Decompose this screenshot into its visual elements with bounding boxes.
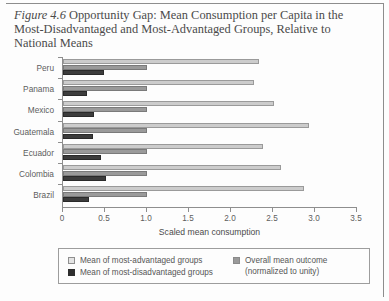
- bar-group-colombia: [63, 165, 363, 186]
- bar-group-peru: [63, 59, 363, 80]
- bar-brazil-mean: [63, 192, 147, 197]
- y-axis-tick: [58, 57, 62, 58]
- x-axis-title: Scaled mean consumption: [62, 227, 357, 237]
- x-axis-tick-label: 1.0: [131, 214, 161, 223]
- bar-panama-mean: [63, 86, 147, 91]
- y-axis-label-panama: Panama: [0, 84, 54, 94]
- y-axis-tick: [58, 184, 62, 185]
- y-axis-label-guatemala: Guatemala: [0, 127, 54, 137]
- x-axis-tick-label: 2.5: [257, 214, 287, 223]
- x-axis-tick-label: 3.0: [299, 214, 329, 223]
- x-axis-tick: [230, 208, 231, 212]
- bar-group-ecuador: [63, 144, 363, 165]
- bar-group-panama: [63, 80, 363, 101]
- x-axis-tick-label: 0.5: [89, 214, 119, 223]
- bar-peru-mean: [63, 65, 147, 70]
- x-axis-tick: [62, 208, 63, 212]
- y-axis-label-peru: Peru: [0, 63, 54, 73]
- bar-panama-dis: [63, 91, 87, 96]
- legend-label-overall-mean-line2: (normalized to unity): [245, 267, 319, 277]
- bar-group-brazil: [63, 186, 363, 207]
- bar-guatemala-dis: [63, 134, 93, 139]
- light-gray-swatch-icon: [68, 257, 75, 264]
- bar-ecuador-mean: [63, 149, 147, 154]
- bar-colombia-mean: [63, 171, 147, 176]
- y-axis-label-mexico: Mexico: [0, 105, 54, 115]
- bar-ecuador-dis: [63, 155, 101, 160]
- y-axis-label-ecuador: Ecuador: [0, 148, 54, 158]
- x-axis-tick-label: 0: [47, 214, 77, 223]
- legend-label-overall-mean-line1: Overall mean outcome: [245, 256, 327, 266]
- bar-group-mexico: [63, 101, 363, 122]
- chart-plot-area: PeruPanamaMexicoGuatemalaEcuadorColombia…: [0, 55, 389, 215]
- y-axis-label-colombia: Colombia: [0, 169, 54, 179]
- y-axis-label-brazil: Brazil: [0, 190, 54, 200]
- y-axis-tick: [58, 121, 62, 122]
- y-axis-tick: [58, 163, 62, 164]
- x-axis-tick: [314, 208, 315, 212]
- legend-label-disadvantaged: Mean of most-disadvantaged groups: [80, 268, 213, 278]
- bar-peru-dis: [63, 70, 104, 75]
- figure-page: Figure 4.6 Opportunity Gap: Mean Consump…: [0, 0, 389, 301]
- chart-legend: Mean of most-advantaged groups Mean of m…: [58, 248, 370, 284]
- medium-gray-swatch-icon: [233, 257, 240, 264]
- figure-caption: Figure 4.6 Opportunity Gap: Mean Consump…: [14, 8, 366, 50]
- x-axis-tick: [146, 208, 147, 212]
- legend-label-advantaged: Mean of most-advantaged groups: [80, 256, 202, 266]
- y-axis-tick: [58, 142, 62, 143]
- bar-peru-adv: [63, 59, 259, 64]
- bar-brazil-adv: [63, 186, 304, 191]
- bar-brazil-dis: [63, 197, 89, 202]
- bar-mexico-adv: [63, 101, 274, 106]
- x-axis-tick: [104, 208, 105, 212]
- bar-colombia-dis: [63, 176, 106, 181]
- bar-mexico-mean: [63, 107, 147, 112]
- bar-mexico-dis: [63, 112, 94, 117]
- figure-number: Figure 4.6: [14, 8, 66, 22]
- y-axis-tick: [58, 99, 62, 100]
- y-axis-labels: PeruPanamaMexicoGuatemalaEcuadorColombia…: [0, 55, 58, 207]
- bar-guatemala-adv: [63, 123, 309, 128]
- x-axis-tick-label: 1.5: [173, 214, 203, 223]
- x-axis-tick: [356, 208, 357, 212]
- y-axis-tick: [58, 78, 62, 79]
- x-axis-tick-label: 2.0: [215, 214, 245, 223]
- dark-swatch-icon: [68, 269, 75, 276]
- bar-panama-adv: [63, 80, 254, 85]
- bar-group-guatemala: [63, 123, 363, 144]
- x-axis-tick: [188, 208, 189, 212]
- bar-colombia-adv: [63, 165, 281, 170]
- bar-guatemala-mean: [63, 128, 147, 133]
- x-axis-tick: [272, 208, 273, 212]
- x-axis-tick-label: 3.5: [341, 214, 371, 223]
- top-rule: [6, 3, 383, 4]
- bar-ecuador-adv: [63, 144, 263, 149]
